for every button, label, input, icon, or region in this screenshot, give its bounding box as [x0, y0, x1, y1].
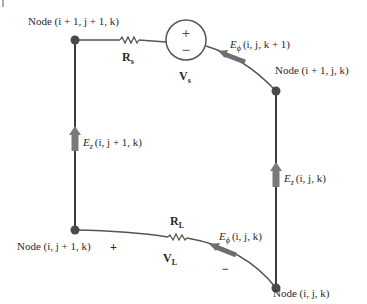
node-bottom-left-label: Node (i, j + 1, k) [17, 240, 91, 253]
e-phi-top-label: Eϕ(i, j, k + 1) [229, 38, 290, 53]
vs-plus-sign: + [182, 25, 190, 41]
vl-minus-sign: − [222, 262, 229, 276]
node-top-right-label: Node (i + 1, j, k) [275, 64, 349, 77]
vs-minus-sign: − [182, 42, 190, 58]
vl-plus-sign: + [110, 240, 117, 254]
e-z-right-arrow-icon [270, 162, 282, 171]
rs-label: Rs [122, 50, 134, 66]
top-wire-mid [139, 40, 166, 42]
node-top-right [272, 87, 281, 96]
node-top-left [71, 36, 80, 45]
circuit-diagram: + − Node (i + 1, j + 1, k) Node (i + 1, … [0, 0, 367, 304]
vl-label: VL [163, 251, 177, 267]
bottom-wire-right [187, 238, 276, 288]
top-wire-right [206, 46, 276, 91]
node-bottom-left [71, 226, 80, 235]
source-resistor-icon [120, 37, 139, 43]
rl-label: RL [170, 214, 184, 230]
e-z-right-label: Ez(i, j, k) [283, 172, 326, 187]
e-z-left-arrow-shaft [72, 133, 79, 151]
node-bottom-right-label: Node (i, j, k) [273, 287, 330, 300]
e-phi-bottom-arrow-shaft [216, 247, 236, 255]
load-resistor-icon [168, 234, 187, 240]
e-z-left-arrow-icon [69, 126, 81, 135]
e-z-right-arrow-shaft [273, 169, 280, 187]
node-top-left-label: Node (i + 1, j + 1, k) [28, 15, 119, 28]
e-phi-top-arrow-shaft [224, 54, 245, 62]
e-phi-bottom-label: Eϕ(i, j, k) [218, 230, 262, 245]
vs-label: Vs [179, 69, 191, 85]
bottom-wire-left [75, 230, 168, 237]
e-z-left-label: Ez(i, j + 1, k) [82, 136, 142, 151]
